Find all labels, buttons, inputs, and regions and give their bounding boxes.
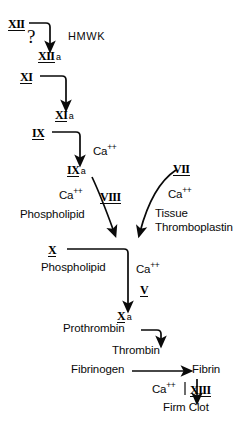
arrow-ix-to-ixa <box>52 132 80 161</box>
calcium-viii-label: Ca++ <box>59 187 82 201</box>
factor-xiia-label: XII <box>38 50 55 63</box>
firm-clot-label: Firm Clot <box>163 402 209 414</box>
factor-xiii: XIII <box>190 381 211 397</box>
factor-ix-label: IX <box>32 127 44 140</box>
factor-xia: XIa <box>55 106 74 122</box>
factor-viii: VIII <box>100 188 121 204</box>
fibrin-label: Fibrin <box>192 364 220 376</box>
calcium-vii-charge: ++ <box>182 185 191 195</box>
factor-ixa-label: IX <box>67 164 79 177</box>
calcium-top-label: Ca++ <box>93 143 116 157</box>
thrombin-label: Thrombin <box>112 345 160 357</box>
factor-xa: Xa <box>117 307 132 323</box>
calcium-vii-text: Ca <box>168 188 182 200</box>
factor-v: V <box>140 281 148 297</box>
tissue-thromboplastin-line1: Tissue <box>155 208 188 220</box>
prothrombin-label: Prothrombin <box>63 323 125 335</box>
calcium-x-charge: ++ <box>150 260 159 270</box>
factor-xa-suffix: a <box>127 312 132 322</box>
factor-ixa-suffix: a <box>81 166 86 176</box>
phospholipid-upper-label: Phospholipid <box>20 209 85 221</box>
calcium-viii-text: Ca <box>59 189 73 201</box>
calcium-top-text: Ca <box>93 145 107 157</box>
factor-viii-label: VIII <box>100 191 121 204</box>
calcium-vii-label: Ca++ <box>168 186 191 200</box>
arrow-x-to-xa <box>67 249 128 307</box>
factor-xia-suffix: a <box>69 111 74 121</box>
factor-x: X <box>48 241 56 257</box>
factor-xi-label: XI <box>20 71 32 84</box>
calcium-xiii-text: Ca <box>152 383 166 395</box>
factor-vii-label: VII <box>173 163 190 176</box>
phospholipid-lower-label: Phospholipid <box>41 262 106 274</box>
calcium-viii-charge: ++ <box>73 186 82 196</box>
arrow-intrinsic-tenase-to-x <box>92 177 114 232</box>
calcium-xiii-label: Ca++ <box>152 381 175 395</box>
factor-xia-label: XI <box>55 109 67 122</box>
factor-ixa: IXa <box>67 161 86 177</box>
factor-xi: XI <box>20 68 32 84</box>
factor-v-label: V <box>140 284 148 297</box>
factor-xii: XII <box>8 15 25 31</box>
calcium-xiii-charge: ++ <box>166 380 175 390</box>
calcium-top-charge: ++ <box>107 142 116 152</box>
factor-vii: VII <box>173 160 190 176</box>
hmwk-label: HMWK <box>68 31 105 42</box>
factor-x-label: X <box>48 244 56 257</box>
factor-ix: IX <box>32 124 44 140</box>
fibrinogen-label: Fibrinogen <box>71 364 124 376</box>
factor-xiia: XIIa <box>38 47 61 63</box>
coagulation-cascade-diagram: XII XIIa XI XIa IX IXa VIII VII X V Xa X… <box>0 0 252 429</box>
factor-xiia-suffix: a <box>56 52 61 62</box>
arrow-xi-to-xia <box>40 76 66 106</box>
arrow-prothrombin-to-thrombin <box>141 330 161 342</box>
calcium-x-label: Ca++ <box>136 261 159 275</box>
question-mark-label: ? <box>27 27 35 46</box>
calcium-x-text: Ca <box>136 263 150 275</box>
factor-xii-label: XII <box>8 18 25 31</box>
factor-xiii-label: XIII <box>190 384 211 397</box>
tissue-thromboplastin-line2: Thromboplastin <box>155 222 233 234</box>
